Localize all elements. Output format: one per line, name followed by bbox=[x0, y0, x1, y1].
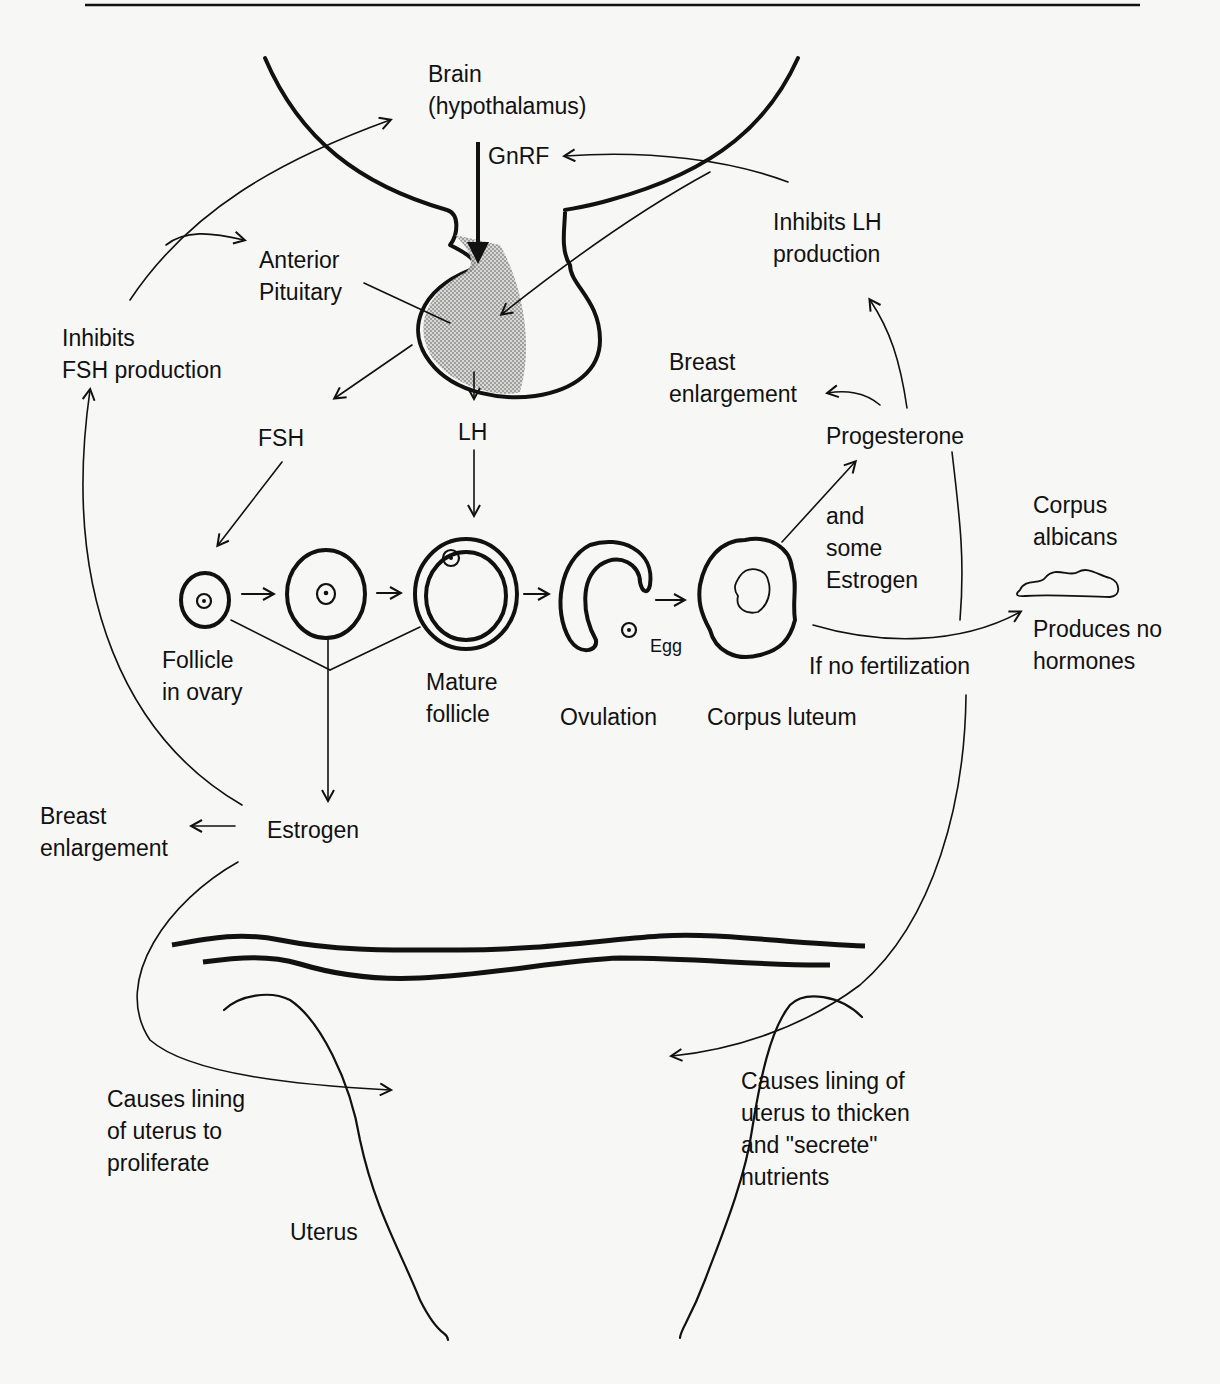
label-thicken-1: Causes lining of bbox=[741, 1068, 905, 1094]
label-breast-left-2: enlargement bbox=[40, 835, 168, 861]
label-follicle-1: Follicle bbox=[162, 647, 234, 673]
label-inhibits-fsh-2: FSH production bbox=[62, 357, 222, 383]
follicle-mature bbox=[415, 539, 517, 649]
corpus-luteum-shape bbox=[699, 539, 795, 657]
label-gnrf: GnRF bbox=[488, 143, 549, 169]
label-fsh: FSH bbox=[258, 425, 304, 451]
progesterone-to-inhibit-lh-arrow bbox=[870, 300, 907, 408]
label-breast-top-1: Breast bbox=[669, 349, 736, 375]
label-estrogen: Estrogen bbox=[267, 817, 359, 843]
inhibit-fsh-to-brain-arrow bbox=[130, 120, 390, 300]
follicle-growing bbox=[287, 550, 365, 638]
label-brain: Brain bbox=[428, 61, 482, 87]
progesterone-to-uterus-arrow bbox=[672, 695, 966, 1056]
label-uterus: Uterus bbox=[290, 1219, 358, 1245]
label-corpus-albicans-2: albicans bbox=[1033, 524, 1117, 550]
fsh-arrow bbox=[335, 345, 412, 398]
label-corpus-albicans-1: Corpus bbox=[1033, 492, 1107, 518]
label-proliferate-1: Causes lining bbox=[107, 1086, 245, 1112]
diagram-svg: Brain (hypothalamus) GnRF Inhibits LH pr… bbox=[0, 0, 1220, 1384]
label-thicken-3: and "secrete" bbox=[741, 1132, 878, 1158]
label-breast-left-1: Breast bbox=[40, 803, 107, 829]
corpus-luteum-to-progesterone-arrow bbox=[782, 462, 855, 542]
label-inhibits-lh-1: Inhibits LH bbox=[773, 209, 882, 235]
hormone-cycle-diagram: Brain (hypothalamus) GnRF Inhibits LH pr… bbox=[0, 0, 1220, 1384]
label-some: some bbox=[826, 535, 882, 561]
progesterone-to-breast-arrow bbox=[828, 392, 880, 405]
ovulation-ruptured-follicle bbox=[560, 542, 650, 650]
label-corpus-luteum: Corpus luteum bbox=[707, 704, 857, 730]
no-fertilization-arrow bbox=[813, 612, 1020, 639]
label-produces-no-1: Produces no bbox=[1033, 616, 1162, 642]
corpus-albicans-shape bbox=[1017, 570, 1118, 597]
label-progesterone: Progesterone bbox=[826, 423, 964, 449]
label-ovulation: Ovulation bbox=[560, 704, 657, 730]
label-thicken-4: nutrients bbox=[741, 1164, 829, 1190]
label-and: and bbox=[826, 503, 864, 529]
label-mature-1: Mature bbox=[426, 669, 498, 695]
label-produces-no-2: hormones bbox=[1033, 648, 1135, 674]
label-some-estrogen: Estrogen bbox=[826, 567, 918, 593]
label-proliferate-3: proliferate bbox=[107, 1150, 209, 1176]
label-pituitary: Pituitary bbox=[259, 279, 343, 305]
label-anterior: Anterior bbox=[259, 247, 340, 273]
inhibit-lh-arrow-pituitary bbox=[502, 172, 710, 314]
label-inhibits-lh-2: production bbox=[773, 241, 880, 267]
follicle-small bbox=[181, 573, 229, 627]
estrogen-line-small bbox=[231, 620, 330, 670]
estrogen-feedback-curve bbox=[83, 390, 242, 805]
label-follicle-2: in ovary bbox=[162, 679, 243, 705]
label-breast-top-2: enlargement bbox=[669, 381, 797, 407]
label-egg: Egg bbox=[650, 636, 682, 656]
progesterone-curve-mid bbox=[952, 452, 962, 620]
label-lh: LH bbox=[458, 419, 487, 445]
label-if-no-fertilization: If no fertilization bbox=[809, 653, 970, 679]
label-thicken-2: uterus to thicken bbox=[741, 1100, 910, 1126]
label-proliferate-2: of uterus to bbox=[107, 1118, 222, 1144]
label-inhibits-fsh-1: Inhibits bbox=[62, 325, 135, 351]
label-mature-2: follicle bbox=[426, 701, 490, 727]
label-hypothalamus: (hypothalamus) bbox=[428, 93, 587, 119]
fsh-to-follicle-arrow bbox=[218, 462, 282, 545]
